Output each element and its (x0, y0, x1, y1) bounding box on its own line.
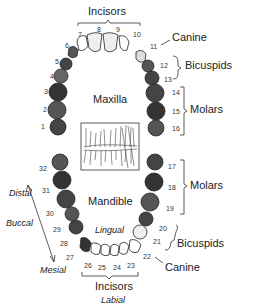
lower-canine-label: Canine (165, 262, 200, 273)
tooth-number-29: 29 (53, 226, 61, 233)
tooth-number-12: 12 (160, 62, 168, 69)
tooth-number-28: 28 (60, 240, 68, 247)
tooth-number-30: 30 (46, 210, 54, 217)
tooth-number-1: 1 (41, 123, 45, 130)
tooth-number-7: 7 (78, 31, 82, 38)
lower-incisors-label: Incisors (95, 281, 133, 292)
tooth-number-2: 2 (43, 106, 47, 113)
tooth-number-3: 3 (44, 88, 48, 95)
tooth-number-15: 15 (172, 108, 180, 115)
tooth-number-16: 16 (172, 125, 180, 132)
tooth-number-26: 26 (84, 262, 92, 269)
upper-incisors-label: Incisors (88, 6, 126, 17)
lower-canine-leader (155, 257, 163, 263)
tooth-number-32: 32 (39, 165, 47, 172)
tooth-number-19: 19 (166, 205, 174, 212)
tooth-number-4: 4 (50, 73, 54, 80)
distal-label: Distal (9, 189, 32, 198)
upper-bicuspids-label: Bicuspids (185, 60, 232, 71)
tooth-number-6: 6 (65, 42, 69, 49)
tooth-number-21: 21 (153, 238, 161, 245)
tooth-number-5: 5 (55, 58, 59, 65)
upper-incisors-bracket (78, 20, 140, 26)
maxilla-label: Maxilla (93, 94, 127, 105)
tooth-number-22: 22 (143, 253, 151, 260)
tooth-number-20: 20 (159, 225, 167, 232)
tooth-number-27: 27 (66, 254, 74, 261)
lower-bicuspids-label: Bicuspids (177, 238, 224, 249)
tooth-number-11: 11 (150, 43, 157, 50)
upper-canine-label: Canine (172, 32, 207, 43)
tooth-number-10: 10 (133, 31, 141, 38)
lower-molars-label: Molars (190, 180, 223, 191)
labial-label: Labial (101, 296, 125, 305)
tooth-number-18: 18 (168, 184, 176, 191)
tooth-number-8: 8 (97, 26, 101, 33)
tooth-number-9: 9 (116, 26, 120, 33)
tooth-number-24: 24 (113, 264, 121, 271)
lingual-label: Lingual (95, 226, 124, 235)
mandible-label: Mandible (88, 196, 133, 207)
tooth-number-25: 25 (98, 264, 106, 271)
mesial-label: Mesial (40, 266, 66, 275)
tooth-number-31: 31 (42, 187, 50, 194)
upper-canine-leader (161, 40, 170, 45)
tooth-number-23: 23 (127, 262, 135, 269)
tooth-number-17: 17 (168, 163, 176, 170)
buccal-label: Buccal (6, 219, 33, 228)
tooth-number-13: 13 (164, 76, 172, 83)
tooth-number-14: 14 (172, 89, 180, 96)
upper-molars-label: Molars (190, 104, 223, 115)
